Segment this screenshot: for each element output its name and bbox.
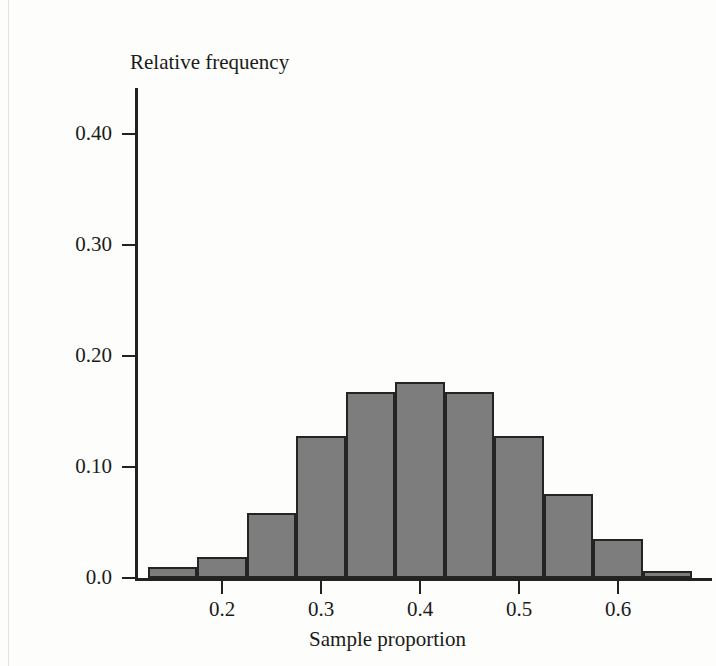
histogram-bar <box>346 392 396 578</box>
plot-area: Relative frequency 0.00.100.200.300.40 0… <box>40 16 716 666</box>
x-tick-mark <box>617 581 619 594</box>
histogram-bar <box>197 557 247 578</box>
histogram-bar <box>296 436 346 578</box>
histogram-bar <box>148 567 198 578</box>
histogram-figure: Relative frequency 0.00.100.200.300.40 0… <box>40 16 716 666</box>
y-tick-label: 0.30 <box>50 234 112 255</box>
x-tick-mark <box>320 581 322 594</box>
histogram-bar <box>445 392 495 578</box>
x-tick-label: 0.6 <box>588 599 648 620</box>
y-tick-mark <box>122 244 136 246</box>
x-tick-mark <box>419 581 421 594</box>
x-axis-title: Sample proportion <box>40 627 716 652</box>
x-tick-label: 0.5 <box>489 599 549 620</box>
x-tick-label: 0.2 <box>192 599 252 620</box>
y-tick-mark <box>122 577 136 579</box>
y-tick-mark <box>122 466 136 468</box>
y-tick-mark <box>122 133 136 135</box>
x-tick-label: 0.3 <box>291 599 351 620</box>
histogram-bar <box>544 494 594 578</box>
histogram-bar <box>395 382 445 578</box>
y-tick-label: 0.40 <box>50 123 112 144</box>
histogram-bar <box>643 571 693 578</box>
x-tick-mark <box>518 581 520 594</box>
histogram-bar <box>247 513 297 578</box>
page-scan-edge <box>8 0 9 666</box>
y-tick-label: 0.10 <box>50 456 112 477</box>
histogram-bar <box>494 436 544 578</box>
y-axis-title: Relative frequency <box>130 50 289 75</box>
x-tick-mark <box>221 581 223 594</box>
x-tick-label: 0.4 <box>390 599 450 620</box>
y-tick-label: 0.20 <box>50 345 112 366</box>
y-axis-line <box>135 88 138 580</box>
histogram-bar <box>593 539 643 578</box>
y-tick-label: 0.0 <box>50 567 112 588</box>
y-tick-mark <box>122 355 136 357</box>
